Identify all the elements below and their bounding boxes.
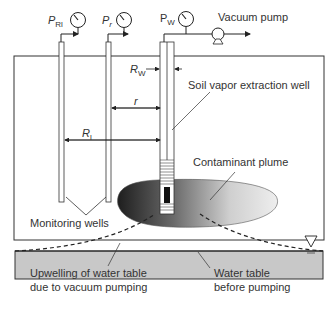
monitoring-well-rl: [59, 42, 64, 202]
label-p-w: PW: [160, 12, 175, 27]
label-water-table-line1: Water table: [214, 267, 270, 279]
label-upwelling-line2: due to vacuum pumping: [30, 281, 147, 293]
pressure-gauge-icon: [117, 13, 132, 28]
label-upwelling-line1: Upwelling of water table: [30, 267, 147, 279]
label-monitoring-wells: Monitoring wells: [30, 217, 109, 229]
label-water-table-line2: before pumping: [214, 281, 290, 293]
well-screen: [164, 187, 170, 203]
pressure-gauge-icon: [179, 12, 194, 27]
pressure-gauge-icon: [71, 13, 86, 28]
label-p-r: Pr: [102, 14, 112, 29]
label-vacuum-pump: Vacuum pump: [218, 11, 288, 23]
label-soil-vapor-extraction-well: Soil vapor extraction well: [188, 79, 310, 91]
soil-vapor-extraction-diagram: PRl Pr PW Vacuum pump RW r Rl Soil vapor…: [0, 0, 335, 317]
vacuum-pump-icon: [212, 28, 224, 44]
label-p-rl: PRl: [48, 14, 63, 29]
label-r-w: RW: [130, 63, 146, 78]
contaminant-plume: [118, 179, 278, 227]
label-contaminant-plume: Contaminant plume: [193, 156, 288, 168]
label-r: r: [134, 95, 139, 107]
monitoring-well-r: [106, 42, 111, 202]
soil-vapor-extraction-well: [160, 42, 174, 214]
